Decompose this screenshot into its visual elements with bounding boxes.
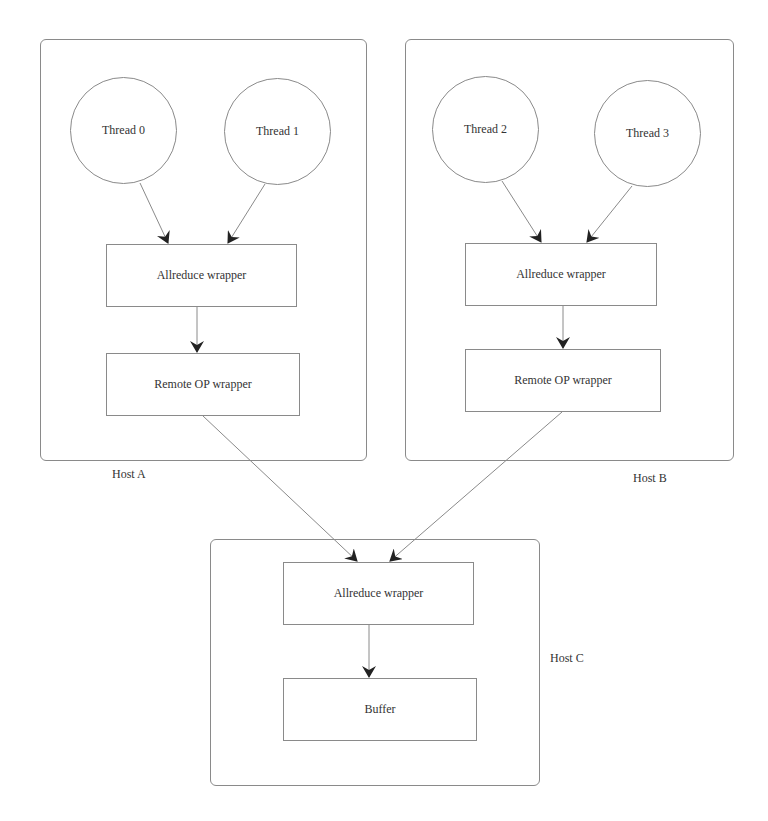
edge-thread2-to-allreduce-b [502, 181, 541, 242]
edges-layer [0, 0, 768, 821]
edge-remote-a-to-allreduce-c [203, 416, 357, 561]
edge-thread1-to-allreduce-a [228, 184, 265, 243]
edge-thread0-to-allreduce-a [140, 183, 168, 243]
edge-remote-b-to-allreduce-c [390, 412, 562, 561]
edge-thread3-to-allreduce-b [587, 186, 632, 242]
